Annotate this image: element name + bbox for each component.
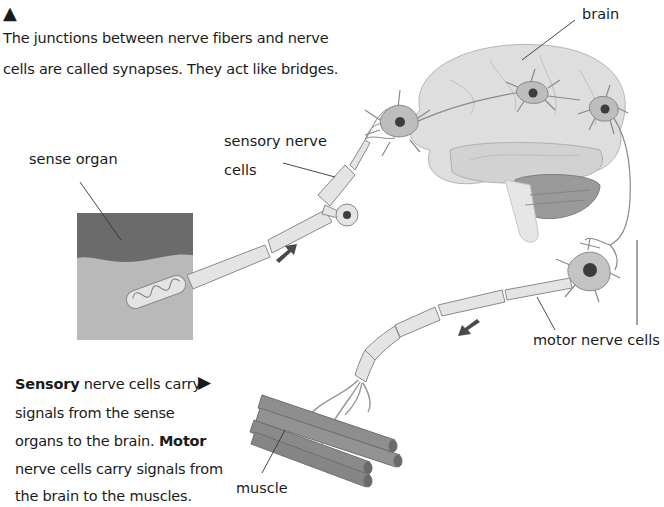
muscle-illustration	[250, 395, 402, 487]
label-brain: brain	[582, 6, 619, 22]
label-muscle: muscle	[236, 480, 288, 496]
brain-illustration	[410, 44, 625, 242]
caption-top-marker-icon: ▲	[3, 2, 17, 23]
label-motor-nerve-cells: motor nerve cells	[533, 332, 660, 348]
caption-bottom-line-4: nerve cells carry signals from	[15, 454, 223, 484]
term-motor: Motor	[159, 433, 206, 449]
arrow-down-left-icon	[458, 319, 480, 336]
caption-bottom-marker-icon: ▶	[198, 372, 211, 392]
term-sensory: Sensory	[15, 376, 79, 392]
label-sense-organ: sense organ	[29, 151, 118, 167]
caption-bottom-line-2: signals from the sense	[15, 398, 175, 428]
caption-bottom-line-5: the brain to the muscles.	[15, 481, 192, 507]
caption-bottom-line-3: organs to the brain. Motor	[15, 426, 206, 456]
caption-bottom-line-1: Sensory nerve cells carry	[15, 369, 201, 399]
caption-bottom-line-3-pre: organs to the brain.	[15, 433, 159, 449]
caption-bottom-line-1-rest: nerve cells carry	[79, 376, 200, 392]
label-sensory-line-2: cells	[224, 162, 257, 178]
label-sensory-line-1: sensory nerve	[224, 133, 327, 149]
caption-top-line-2: cells are called synapses. They act like…	[3, 54, 338, 84]
caption-top-line-1: The junctions between nerve fibers and n…	[3, 23, 328, 53]
